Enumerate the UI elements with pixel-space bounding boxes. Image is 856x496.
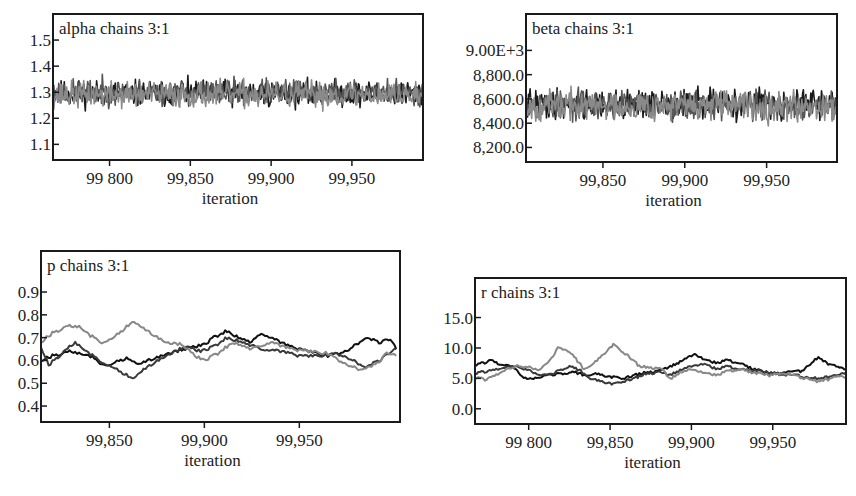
x-axis-label: iteration: [645, 191, 702, 210]
x-tick-label: 99 800: [86, 169, 133, 188]
x-tick-label: 99,950: [329, 169, 376, 188]
y-tick-label: 1.4: [30, 57, 52, 76]
y-tick-label: 0.4: [18, 397, 40, 416]
y-tick-label: 1.5: [30, 31, 51, 50]
panel-title: r chains 3:1: [481, 283, 560, 302]
y-tick-label: 1.1: [30, 135, 51, 154]
x-tick-label: 99,850: [580, 171, 627, 190]
y-tick-label: 0.6: [18, 351, 39, 370]
x-axis-label: iteration: [184, 451, 241, 470]
y-tick-label: 1.2: [30, 109, 51, 128]
y-tick-label: 0.5: [18, 374, 39, 393]
x-tick-label: 99,900: [661, 171, 708, 190]
y-tick-label: 9.00E+3: [466, 41, 524, 60]
x-tick-label: 99,950: [743, 171, 790, 190]
series-group: [526, 86, 837, 126]
y-tick-label: 0.0: [452, 400, 473, 419]
y-tick-label: 5.0: [452, 369, 473, 388]
series-group: [53, 74, 423, 111]
y-tick-label: 0.8: [18, 306, 39, 325]
y-tick-label: 1.3: [30, 83, 51, 102]
y-tick-label: 0.7: [18, 329, 40, 348]
series-line: [475, 344, 846, 383]
series-line: [41, 330, 396, 365]
series-line: [41, 322, 396, 370]
x-tick-label: 99,850: [86, 431, 133, 450]
x-tick-label: 99,900: [181, 431, 228, 450]
x-tick-label: 99,850: [167, 169, 214, 188]
x-axis-label: iteration: [202, 189, 259, 208]
panel-title: alpha chains 3:1: [59, 19, 169, 38]
panel-title: beta chains 3:1: [532, 19, 634, 38]
panel-p: 0.40.50.60.70.80.999,85099,90099,950p ch…: [18, 251, 400, 470]
series-group: [475, 344, 846, 385]
x-tick-label: 99,900: [248, 169, 295, 188]
y-tick-label: 15.0: [443, 309, 473, 328]
x-axis-label: iteration: [624, 453, 681, 472]
y-tick-label: 0.9: [18, 283, 39, 302]
y-tick-label: 8,400.0: [473, 114, 524, 133]
x-tick-label: 99,950: [749, 433, 796, 452]
x-tick-label: 99,900: [668, 433, 715, 452]
panel-title: p chains 3:1: [47, 256, 129, 275]
series-group: [41, 322, 396, 378]
plot-frame: [41, 251, 400, 422]
x-tick-label: 99 800: [505, 433, 552, 452]
panel-r: 0.05.010.015.099 80099,85099,90099,950r …: [443, 278, 846, 472]
panel-beta: 8,200.08,400.08,600.08,800.09.00E+399,85…: [466, 14, 837, 210]
y-tick-label: 8,800.0: [473, 66, 524, 85]
trace-plots-figure: 1.11.21.31.41.599 80099,85099,90099,950a…: [0, 0, 856, 496]
y-tick-label: 8,600.0: [473, 90, 524, 109]
panel-alpha: 1.11.21.31.41.599 80099,85099,90099,950a…: [30, 14, 423, 208]
x-tick-label: 99,950: [276, 431, 323, 450]
x-tick-label: 99,850: [587, 433, 634, 452]
y-tick-label: 8,200.0: [473, 138, 524, 157]
y-tick-label: 10.0: [443, 339, 473, 358]
